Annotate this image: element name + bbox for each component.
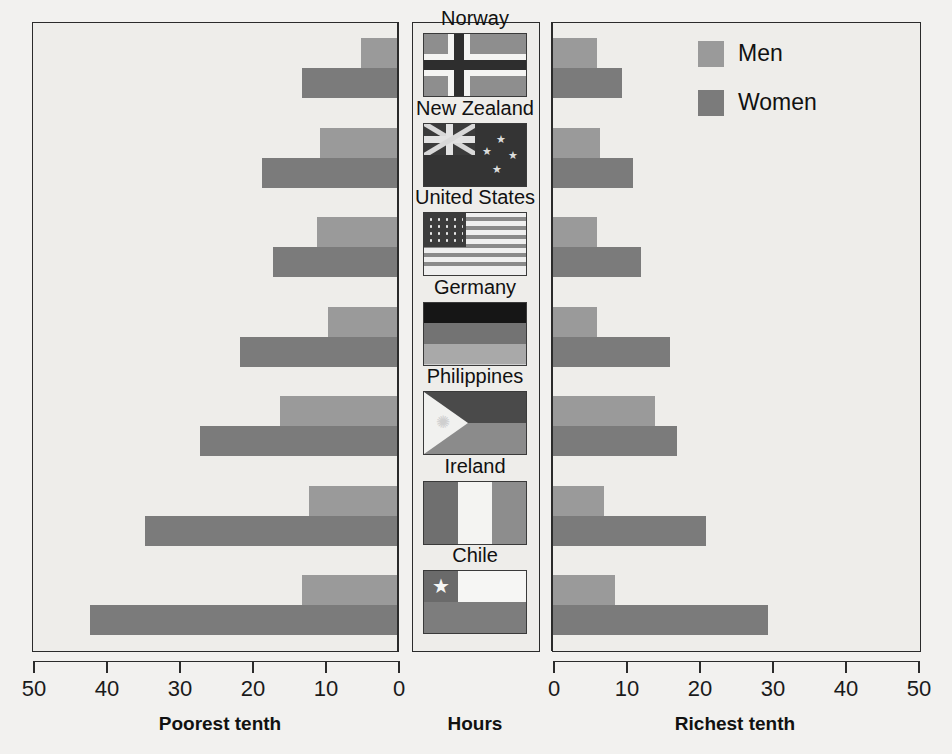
country-cell-chile: Chile★: [412, 543, 538, 634]
bar-norway-men-richest: [553, 38, 597, 68]
bar-new-zealand-women-richest: [553, 158, 633, 188]
bar-chile-women-poorest: [90, 605, 397, 635]
bar-ireland-men-poorest: [309, 486, 397, 516]
country-cell-new-zealand: New Zealand★★★★: [412, 96, 538, 187]
bar-chile-women-richest: [553, 605, 768, 635]
tick-richest-20: 20: [675, 676, 725, 702]
tick-richest-10: 10: [602, 676, 652, 702]
axis-title-hours: Hours: [405, 713, 545, 735]
flag-ireland: [423, 481, 527, 545]
legend-label-men: Men: [738, 40, 783, 67]
bar-united-states-women-richest: [553, 247, 641, 277]
legend-item-women: Women: [698, 89, 817, 116]
tick-poorest-0-mark: [398, 661, 400, 673]
axis-title-poorest: Poorest tenth: [130, 713, 310, 735]
tick-poorest-40: 40: [82, 676, 132, 702]
x-axis-richest: [553, 661, 918, 662]
tick-poorest-10: 10: [301, 676, 351, 702]
bar-norway-women-poorest: [302, 68, 397, 98]
flag-new-zealand: ★★★★: [423, 123, 527, 187]
country-label-chile: Chile: [412, 543, 538, 567]
country-label-new-zealand: New Zealand: [412, 96, 538, 120]
tick-poorest-40-mark: [106, 661, 108, 673]
tick-poorest-20: 20: [228, 676, 278, 702]
bar-philippines-men-poorest: [280, 396, 397, 426]
tick-richest-30-mark: [772, 661, 774, 673]
legend: Men Women: [698, 40, 817, 138]
legend-label-women: Women: [738, 89, 817, 116]
country-label-ireland: Ireland: [412, 454, 538, 478]
flag-united-states: [423, 212, 527, 276]
bar-ireland-women-richest: [553, 516, 706, 546]
flag-norway: [423, 33, 527, 97]
country-label-united-states: United States: [412, 185, 538, 209]
bar-ireland-men-richest: [553, 486, 604, 516]
bar-philippines-women-poorest: [200, 426, 397, 456]
tick-poorest-20-mark: [252, 661, 254, 673]
country-cell-united-states: United States: [412, 185, 538, 276]
tick-richest-40: 40: [821, 676, 871, 702]
tick-richest-20-mark: [699, 661, 701, 673]
tick-richest-50-mark: [918, 661, 920, 673]
tick-richest-30: 30: [748, 676, 798, 702]
country-cell-philippines: Philippines✺: [412, 364, 538, 455]
tick-poorest-10-mark: [325, 661, 327, 673]
bar-germany-women-poorest: [240, 337, 397, 367]
bar-united-states-women-poorest: [273, 247, 397, 277]
bar-united-states-men-poorest: [317, 217, 397, 247]
country-cell-germany: Germany: [412, 275, 538, 366]
flag-chile: ★: [423, 570, 527, 634]
bar-new-zealand-men-poorest: [320, 128, 397, 158]
legend-swatch-women: [698, 90, 724, 116]
tick-poorest-50-mark: [33, 661, 35, 673]
tick-richest-0-mark: [553, 661, 555, 673]
bar-new-zealand-women-poorest: [262, 158, 397, 188]
bar-philippines-women-richest: [553, 426, 677, 456]
flag-philippines: ✺: [423, 391, 527, 455]
zero-line-left: [397, 22, 399, 651]
tick-poorest-30: 30: [155, 676, 205, 702]
flag-germany: [423, 302, 527, 366]
tick-poorest-50: 50: [9, 676, 59, 702]
legend-swatch-men: [698, 41, 724, 67]
chart-root: NorwayNew Zealand★★★★United StatesGerman…: [0, 0, 952, 754]
bar-germany-men-poorest: [328, 307, 397, 337]
bar-chile-men-richest: [553, 575, 615, 605]
tick-richest-0: 0: [529, 676, 579, 702]
bar-united-states-men-richest: [553, 217, 597, 247]
bar-ireland-women-poorest: [145, 516, 397, 546]
legend-item-men: Men: [698, 40, 817, 67]
bar-norway-men-poorest: [361, 38, 398, 68]
country-cell-ireland: Ireland: [412, 454, 538, 545]
bar-norway-women-richest: [553, 68, 622, 98]
tick-poorest-30-mark: [179, 661, 181, 673]
tick-richest-10-mark: [626, 661, 628, 673]
country-label-norway: Norway: [412, 6, 538, 30]
bar-philippines-men-richest: [553, 396, 655, 426]
tick-richest-50: 50: [894, 676, 944, 702]
bar-germany-men-richest: [553, 307, 597, 337]
bar-new-zealand-men-richest: [553, 128, 600, 158]
country-label-philippines: Philippines: [412, 364, 538, 388]
bar-germany-women-richest: [553, 337, 670, 367]
bar-chile-men-poorest: [302, 575, 397, 605]
tick-richest-40-mark: [845, 661, 847, 673]
country-cell-norway: Norway: [412, 6, 538, 97]
x-axis-poorest: [35, 661, 399, 662]
axis-title-richest: Richest tenth: [645, 713, 825, 735]
country-label-germany: Germany: [412, 275, 538, 299]
tick-poorest-0: 0: [374, 676, 424, 702]
